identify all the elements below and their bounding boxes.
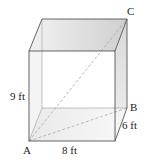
vertex-label-c: C xyxy=(127,6,134,17)
prism-diagram xyxy=(0,0,147,164)
top-face xyxy=(29,19,127,51)
length-label: 8 ft xyxy=(62,145,77,156)
vertex-label-a: A xyxy=(23,145,31,156)
vertex-label-b: B xyxy=(130,102,137,113)
height-label: 9 ft xyxy=(10,91,25,102)
width-label: 6 ft xyxy=(122,120,137,131)
